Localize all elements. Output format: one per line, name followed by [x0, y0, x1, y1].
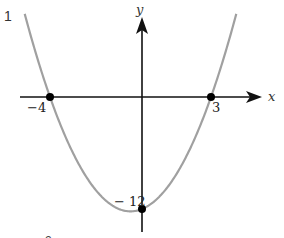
- problem-number: 1: [4, 8, 12, 24]
- label-y-intercept: − 12: [114, 194, 146, 209]
- y-axis-label: y: [135, 2, 144, 17]
- parabola-curve: [25, 14, 237, 211]
- label-x-intercept-left: −4: [27, 100, 46, 115]
- x-axis-label: x: [268, 89, 276, 104]
- next-problem-number-partial: 2: [45, 234, 52, 238]
- parabola-graph: 1 x y −4 3 − 12 2: [0, 0, 284, 238]
- point-x-intercept-left: [46, 93, 54, 101]
- label-x-intercept-right: 3: [212, 100, 220, 115]
